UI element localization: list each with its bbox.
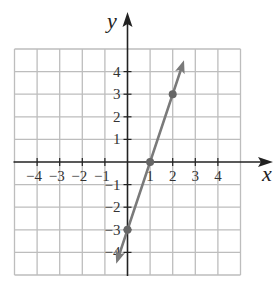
- y-tick-label: 3: [113, 86, 121, 102]
- x-tick-label: −4: [26, 168, 42, 184]
- x-tick-label: 3: [192, 168, 200, 184]
- data-point: [124, 226, 132, 234]
- x-axis-label: x: [261, 161, 272, 186]
- y-tick-label: 2: [113, 109, 121, 125]
- y-axis-label: y: [105, 8, 117, 33]
- y-tick-label: −3: [105, 222, 121, 238]
- y-tick-label: 1: [113, 131, 121, 147]
- x-tick-label: 2: [169, 168, 177, 184]
- y-tick-label: −2: [105, 199, 121, 215]
- y-tick-label: 4: [113, 64, 121, 80]
- x-tick-label: −3: [49, 168, 65, 184]
- data-point: [169, 90, 177, 98]
- axes: [14, 12, 274, 276]
- coordinate-plane: −4−3−2−112344321−1−2−3−4 x y: [0, 0, 276, 296]
- x-tick-label: 4: [214, 168, 222, 184]
- x-tick-label: −2: [71, 168, 87, 184]
- y-tick-label: −1: [105, 177, 121, 193]
- data-point: [146, 158, 154, 166]
